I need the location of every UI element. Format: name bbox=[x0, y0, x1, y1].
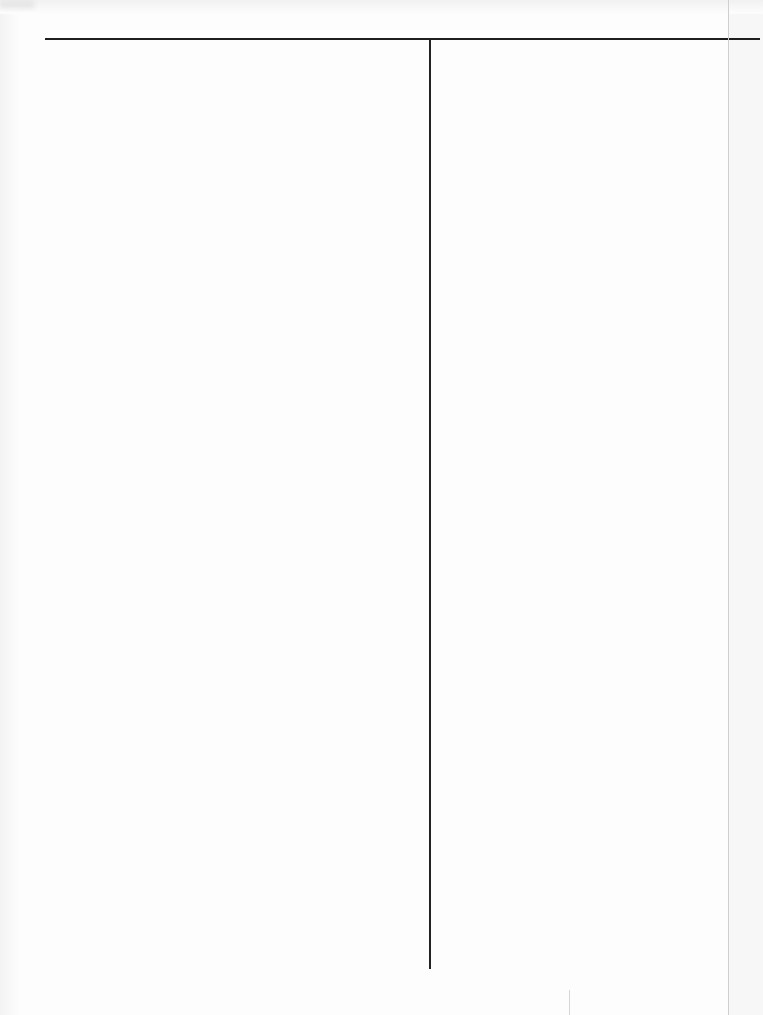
scan-corner-smudge bbox=[0, 0, 34, 8]
scan-shadow-left bbox=[0, 0, 20, 1015]
right-page-margin bbox=[729, 0, 763, 1015]
page-edge-line bbox=[728, 0, 729, 1015]
scan-shadow-top bbox=[0, 0, 763, 14]
column-divider-rule bbox=[429, 39, 431, 969]
left-column bbox=[45, 42, 427, 967]
bottom-scan-mark bbox=[569, 990, 570, 1015]
top-horizontal-rule bbox=[45, 38, 760, 40]
right-column bbox=[433, 42, 725, 967]
